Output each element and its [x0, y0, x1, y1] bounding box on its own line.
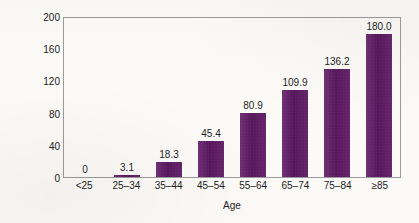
bar-value-label: 180.0 — [366, 21, 391, 32]
chart-figure: Deaths/100,000 resident population 200 1… — [0, 0, 419, 223]
bar-value-label: 80.9 — [243, 100, 262, 111]
y-tick-120: 120 — [32, 76, 60, 87]
bar-value-label: 109.9 — [282, 77, 307, 88]
bar-slot: 80.9 — [232, 18, 274, 177]
table-row — [198, 141, 224, 177]
table-row — [114, 175, 140, 177]
bar-slot: 18.3 — [148, 18, 190, 177]
x-tick-label: ≥85 — [359, 180, 401, 196]
x-tick-label: 45–54 — [190, 180, 232, 196]
x-tick-label: 65–74 — [274, 180, 316, 196]
table-row — [282, 90, 308, 177]
x-tick-label: 25–34 — [105, 180, 147, 196]
x-tick-label: <25 — [63, 180, 105, 196]
x-axis-title: Age — [63, 200, 401, 211]
bar-value-label: 45.4 — [201, 128, 220, 139]
y-tick-160: 160 — [32, 44, 60, 55]
y-axis-tick-labels: 200 160 120 80 40 0 — [29, 0, 60, 223]
y-tick-40: 40 — [32, 140, 60, 151]
bar-series: 0 3.1 18.3 45.4 80.9 109.9 — [64, 18, 400, 177]
y-tick-80: 80 — [32, 108, 60, 119]
bar-slot: 109.9 — [274, 18, 316, 177]
y-tick-200: 200 — [32, 12, 60, 23]
y-tick-0: 0 — [32, 173, 60, 184]
bar-value-label: 136.2 — [324, 56, 349, 67]
bar-slot: 180.0 — [358, 18, 400, 177]
x-tick-label: 75–84 — [317, 180, 359, 196]
table-row — [324, 69, 350, 177]
plot-area: 0 3.1 18.3 45.4 80.9 109.9 — [63, 17, 401, 178]
table-row — [366, 34, 392, 177]
bar-value-label: 18.3 — [159, 149, 178, 160]
bar-value-label: 3.1 — [120, 162, 134, 173]
table-row — [156, 162, 182, 177]
bar-slot: 136.2 — [316, 18, 358, 177]
x-tick-label: 35–44 — [148, 180, 190, 196]
bar-slot: 0 — [64, 18, 106, 177]
x-tick-label: 55–64 — [232, 180, 274, 196]
x-axis-tick-labels: <25 25–34 35–44 45–54 55–64 65–74 75–84 … — [63, 180, 401, 196]
bar-value-label: 0 — [82, 164, 88, 175]
bar-slot: 45.4 — [190, 18, 232, 177]
bar-slot: 3.1 — [106, 18, 148, 177]
table-row — [240, 113, 266, 177]
